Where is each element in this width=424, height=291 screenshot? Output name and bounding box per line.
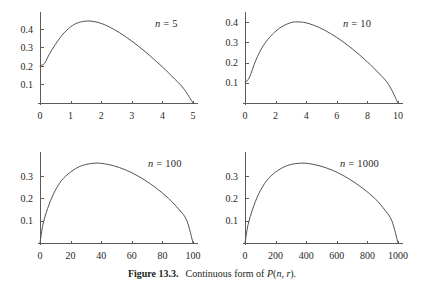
panel-title-n-100: n = 100: [148, 158, 182, 169]
panel-title-value: 5: [172, 18, 177, 29]
y-tick-label: 0.1: [226, 77, 239, 88]
x-tick-label: 5: [191, 110, 196, 121]
y-tick-label: 0.1: [226, 215, 239, 226]
x-tick-label: 0: [38, 110, 43, 121]
y-tick-label: 0.4: [21, 24, 34, 35]
x-tick-label: 10: [393, 110, 403, 121]
panel-title-n-10: n = 10: [343, 18, 371, 29]
y-tick-label: 0.1: [21, 215, 34, 226]
y-tick-label: 0.3: [226, 171, 239, 182]
data-curve: [245, 22, 398, 103]
panel-title-equals: =: [345, 158, 357, 169]
x-tick-label: 8: [365, 110, 370, 121]
figure-caption-label: Figure 13.3.: [128, 268, 179, 279]
panel-title-n-5: n = 5: [155, 18, 178, 29]
data-curve: [40, 163, 193, 243]
x-tick-label: 800: [360, 250, 375, 261]
plot-svg-n-10: 02468100.10.20.30.4: [205, 0, 417, 127]
y-tick-label: 0.3: [21, 171, 34, 182]
panel-title-equals: =: [160, 18, 172, 29]
x-tick-label: 3: [129, 110, 134, 121]
panel-title-equals: =: [153, 158, 165, 169]
panel-title-value: 1000: [357, 158, 379, 169]
plot-svg-n-1000: 020040060080010000.10.20.3: [205, 140, 417, 267]
x-tick-label: 2: [99, 110, 104, 121]
x-tick-label: 100: [186, 250, 201, 261]
figure-caption-text: Continuous form of: [186, 268, 267, 279]
x-tick-label: 0: [243, 250, 248, 261]
x-tick-label: 600: [329, 250, 344, 261]
panel-title-equals: =: [348, 18, 360, 29]
plot-panel-n-1000: 020040060080010000.10.20.3 n = 1000: [205, 140, 417, 267]
x-tick-label: 2: [273, 110, 278, 121]
panel-title-n-1000: n = 1000: [340, 158, 379, 169]
x-tick-label: 80: [157, 250, 167, 261]
x-tick-label: 40: [96, 250, 106, 261]
plot-svg-n-5: 0123450.10.20.30.4: [0, 0, 212, 127]
plot-panel-n-10: 02468100.10.20.30.4 n = 10: [205, 0, 417, 127]
plot-panel-n-5: 0123450.10.20.30.4 n = 5: [0, 0, 212, 127]
y-tick-label: 0.2: [21, 61, 34, 72]
caption-formula-close-paren: ).: [290, 268, 296, 279]
data-curve: [245, 163, 398, 243]
x-tick-label: 1: [68, 110, 73, 121]
y-tick-label: 0.2: [21, 193, 34, 204]
x-tick-label: 1000: [388, 250, 408, 261]
y-tick-label: 0.1: [21, 79, 34, 90]
x-tick-label: 6: [334, 110, 339, 121]
y-tick-label: 0.2: [226, 193, 239, 204]
panel-title-value: 10: [360, 18, 371, 29]
x-tick-label: 20: [66, 250, 76, 261]
plot-panel-n-100: 0204060801000.10.20.3 n = 100: [0, 140, 212, 267]
x-tick-label: 0: [243, 110, 248, 121]
data-curve: [40, 21, 193, 103]
x-tick-label: 4: [160, 110, 165, 121]
x-tick-label: 400: [299, 250, 314, 261]
x-tick-label: 60: [127, 250, 137, 261]
figure-13-3: 0123450.10.20.30.4 n = 5 02468100.10.20.…: [0, 0, 424, 291]
panel-title-value: 100: [165, 158, 181, 169]
figure-caption: Figure 13.3.Continuous form of P(n, r).: [0, 268, 424, 279]
y-tick-label: 0.2: [226, 57, 239, 68]
y-tick-label: 0.3: [21, 42, 34, 53]
x-tick-label: 4: [304, 110, 309, 121]
y-tick-label: 0.3: [226, 37, 239, 48]
y-tick-label: 0.4: [226, 17, 239, 28]
x-tick-label: 200: [268, 250, 283, 261]
x-tick-label: 0: [38, 250, 43, 261]
